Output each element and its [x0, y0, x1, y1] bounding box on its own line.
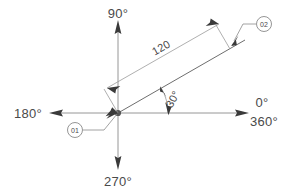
- south-axis: [115, 113, 122, 170]
- angular-dimension-diagram: 120 30° 01 02 90°: [0, 0, 286, 196]
- west-axis-arrowhead-icon: [49, 110, 63, 117]
- balloon-01-label: 01: [71, 127, 79, 134]
- dimension-line: [107, 24, 219, 88]
- angle-arrowhead-upper-icon: [160, 86, 167, 98]
- length-dimension-label: 120: [150, 38, 172, 58]
- dimension-extension-line-start: [104, 89, 118, 113]
- dimension-extension-line-end: [216, 25, 230, 49]
- south-axis-arrowhead-icon: [115, 156, 122, 170]
- south-axis-label: 270°: [104, 174, 132, 189]
- east-axis-label-primary: 0°: [255, 95, 268, 110]
- north-axis-arrowhead-icon: [115, 20, 122, 34]
- balloon-02-group[interactable]: 02: [231, 17, 272, 47]
- east-axis-label-secondary: 360°: [250, 114, 278, 129]
- balloon-01-leader-line: [83, 114, 117, 130]
- west-axis-label: 180°: [14, 106, 42, 121]
- angle-dimension-label: 30°: [163, 89, 182, 110]
- diagram-canvas: 120 30° 01 02 90°: [0, 0, 286, 196]
- north-axis: [115, 20, 122, 113]
- east-axis: [118, 110, 249, 117]
- east-axis-arrowhead-icon: [235, 110, 249, 117]
- north-axis-label: 90°: [108, 6, 129, 21]
- balloon-02-label: 02: [260, 21, 268, 28]
- angle-dimension-group: 30°: [160, 86, 182, 115]
- measured-ray-line: [118, 40, 245, 113]
- balloon-02-leader-line: [234, 24, 256, 41]
